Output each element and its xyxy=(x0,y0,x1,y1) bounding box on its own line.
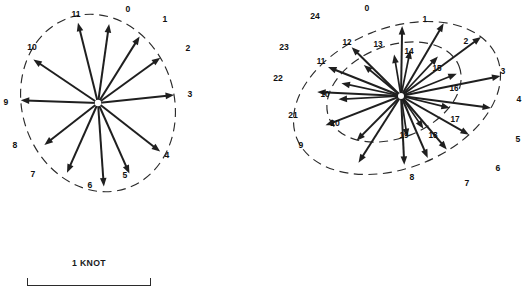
hour-label-2: 2 xyxy=(464,36,469,46)
current-vector-shaft xyxy=(48,103,98,142)
current-vector-shaft xyxy=(401,96,465,132)
hour-label-2: 2 xyxy=(186,43,191,53)
hour-label-5: 5 xyxy=(516,134,521,144)
hour-label-17: 17 xyxy=(450,115,460,124)
hour-label-8: 8 xyxy=(13,140,18,150)
current-vector-arrowhead xyxy=(399,26,406,35)
hour-label-3: 3 xyxy=(188,89,193,99)
current-vector-arrowhead xyxy=(67,164,73,173)
hour-label-21: 21 xyxy=(288,110,298,120)
hour-label-14: 14 xyxy=(404,47,414,56)
current-vector xyxy=(401,74,457,96)
hour-label-9: 9 xyxy=(4,97,9,107)
hour-label-7: 7 xyxy=(465,178,470,188)
scale-bar-left-line xyxy=(27,285,151,286)
hour-label-0: 0 xyxy=(365,3,370,13)
hour-label-16: 16 xyxy=(449,84,459,93)
current-vector-shaft xyxy=(69,103,98,168)
current-vector-arrowhead xyxy=(448,74,457,80)
current-vector-shaft xyxy=(332,69,401,96)
current-vector xyxy=(401,96,447,149)
current-vector-arrowhead xyxy=(132,36,139,45)
rose-center-hub xyxy=(398,93,404,99)
hour-label-4: 4 xyxy=(517,94,522,104)
current-vector xyxy=(98,58,160,103)
hour-label-10: 10 xyxy=(27,42,37,52)
current-vector xyxy=(98,36,140,103)
current-vector xyxy=(328,67,401,96)
current-vector-shaft xyxy=(98,40,137,103)
current-vector-shaft xyxy=(361,96,401,159)
current-vector-arrowhead xyxy=(165,93,174,100)
hour-label-1: 1 xyxy=(163,14,168,24)
current-vector xyxy=(98,103,107,186)
current-vector xyxy=(357,96,401,141)
hour-label-1: 1 xyxy=(423,14,428,24)
current-vector-arrowhead xyxy=(482,104,491,111)
hour-label-10: 10 xyxy=(320,90,330,99)
hour-label-22: 22 xyxy=(273,73,283,83)
current-vector xyxy=(67,103,98,173)
current-vector-arrowhead xyxy=(21,97,30,104)
current-vector-arrowhead xyxy=(339,96,348,103)
current-vector-arrowhead xyxy=(492,74,501,80)
current-vector-shaft xyxy=(98,60,157,103)
current-rose-diagram-right: 0123456789202122232410111213141516171819 xyxy=(261,0,522,215)
current-vector-arrowhead xyxy=(359,154,366,163)
current-vector-shaft xyxy=(98,95,169,103)
current-vector-arrowhead xyxy=(437,23,444,32)
current-vector xyxy=(44,103,98,145)
hour-label-7: 7 xyxy=(31,169,36,179)
hour-label-13: 13 xyxy=(373,40,383,49)
current-vector xyxy=(401,23,444,96)
hour-label-24: 24 xyxy=(310,11,320,21)
current-vector-shaft xyxy=(360,96,401,137)
hour-label-8: 8 xyxy=(410,172,415,182)
current-vector xyxy=(352,47,401,96)
current-vector xyxy=(21,97,98,104)
hour-label-23: 23 xyxy=(279,42,289,52)
current-vector-shaft xyxy=(330,96,401,124)
current-vector-arrowhead xyxy=(460,128,469,135)
current-vector-shaft xyxy=(401,31,402,96)
hour-label-18: 18 xyxy=(428,131,438,140)
current-vector-arrowhead xyxy=(100,178,107,187)
current-rose-diagram-left: 01234567891011 xyxy=(0,0,261,215)
scale-bar-left-label: 1 KNOT xyxy=(27,258,151,268)
current-vector xyxy=(359,96,401,163)
current-vector-arrowhead xyxy=(401,156,408,165)
current-vector-shaft xyxy=(25,100,98,103)
current-vector-arrowhead xyxy=(392,54,399,63)
hour-label-4: 4 xyxy=(165,150,170,160)
current-vector-shaft xyxy=(98,29,108,103)
current-vector-shaft xyxy=(98,103,156,149)
hour-label-6: 6 xyxy=(496,163,501,173)
scale-bar-left: 1 KNOT xyxy=(27,258,151,292)
hour-label-19: 19 xyxy=(399,131,409,140)
tidal-current-rose-figure: 01234567891011 1 KNOT 012345678920212223… xyxy=(0,0,522,294)
hour-label-9: 9 xyxy=(299,140,304,150)
hour-label-11: 11 xyxy=(71,9,80,19)
current-vector-shaft xyxy=(401,75,452,96)
hour-label-15: 15 xyxy=(432,64,442,73)
hour-label-0: 0 xyxy=(126,4,131,14)
scale-bar-left-rule xyxy=(27,277,151,286)
scale-bar-left-tick-start xyxy=(27,278,28,286)
hour-label-5: 5 xyxy=(123,170,128,180)
hour-label-20: 20 xyxy=(330,118,340,128)
rose-center-hub xyxy=(95,100,101,106)
current-vector-arrowhead xyxy=(421,149,427,158)
current-rose-panel-right: 0123456789202122232410111213141516171819… xyxy=(261,0,522,294)
current-rose-panel-left: 01234567891011 1 KNOT xyxy=(0,0,261,294)
current-vector-arrowhead xyxy=(77,23,83,32)
hour-label-11: 11 xyxy=(317,57,326,66)
hour-label-12: 12 xyxy=(342,38,352,47)
scale-bar-left-tick-end xyxy=(150,278,151,286)
hour-label-3: 3 xyxy=(501,66,506,76)
current-vector-arrowhead xyxy=(328,67,337,73)
current-vector-arrowhead xyxy=(105,24,112,33)
current-vector-arrowhead xyxy=(33,59,42,66)
hour-label-6: 6 xyxy=(88,180,93,190)
current-vector-arrowhead xyxy=(341,82,350,88)
current-vector xyxy=(98,103,160,152)
